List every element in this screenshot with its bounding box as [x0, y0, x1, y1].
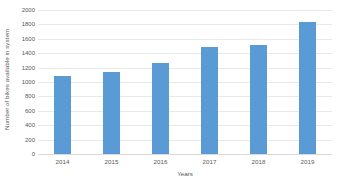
y-axis-tick-label: 1600 [22, 36, 35, 42]
x-axis-tick-label: 2019 [283, 156, 332, 168]
y-axis-tick-label: 0 [32, 151, 35, 157]
bar [152, 63, 169, 154]
bar [299, 22, 316, 154]
bar-slot [38, 10, 87, 154]
y-axis-tick-label: 800 [25, 93, 35, 99]
bar-slot [136, 10, 185, 154]
y-axis-tick-label: 600 [25, 108, 35, 114]
x-axis-title: Years [38, 170, 332, 177]
bar-slot [234, 10, 283, 154]
bars-container [38, 10, 332, 154]
plot-area [38, 10, 332, 154]
bar [250, 45, 267, 154]
y-axis-tick-label: 200 [25, 137, 35, 143]
bar-chart: Number of bikes available in system 0200… [0, 0, 342, 189]
bar [103, 72, 120, 154]
y-axis-tick-label: 1200 [22, 65, 35, 71]
y-axis-tick-label: 1800 [22, 21, 35, 27]
y-axis-title-label: Number of bikes available in system [4, 28, 11, 129]
bar [201, 47, 218, 154]
x-axis-tick-labels: 201420152016201720182019 [38, 156, 332, 168]
x-axis-tick-label: 2016 [136, 156, 185, 168]
bar [54, 76, 71, 154]
bar-slot [185, 10, 234, 154]
bar-slot [87, 10, 136, 154]
x-axis-tick-label: 2017 [185, 156, 234, 168]
y-axis-tick-label: 400 [25, 122, 35, 128]
y-axis-tick-label: 1400 [22, 50, 35, 56]
x-axis-tick-label: 2018 [234, 156, 283, 168]
bar-slot [283, 10, 332, 154]
x-axis-tick-label: 2015 [87, 156, 136, 168]
y-axis-tick-labels: 0200400600800100012001400160018002000 [14, 10, 37, 154]
y-axis-title: Number of bikes available in system [0, 0, 14, 158]
x-axis-tick-label: 2014 [38, 156, 87, 168]
y-axis-tick-label: 1000 [22, 79, 35, 85]
y-axis-tick-label: 2000 [22, 7, 35, 13]
gridline [38, 154, 332, 155]
